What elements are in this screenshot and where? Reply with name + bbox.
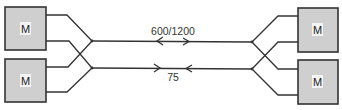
modem-left-1: M — [5, 7, 46, 50]
channel-line — [92, 41, 252, 42]
channel-high-speed: 600/1200 — [92, 25, 252, 45]
modem-left-2: M — [5, 59, 46, 102]
modem-label: M — [21, 75, 30, 87]
right-wiring — [251, 16, 298, 95]
wire — [46, 68, 92, 92]
modem-diagram: M M M M 600/1200 — [0, 0, 342, 110]
channel-low-speed: 75 — [92, 64, 252, 83]
wire — [46, 41, 92, 67]
modem-right-2: M — [298, 60, 338, 104]
channel-label: 600/1200 — [151, 25, 195, 37]
modem-right-1: M — [298, 8, 338, 52]
modem-label: M — [21, 23, 30, 35]
wire — [46, 41, 92, 68]
left-wiring — [46, 15, 93, 92]
channel-label: 75 — [167, 71, 179, 83]
wire — [252, 16, 298, 42]
wire — [252, 69, 298, 95]
channel-line — [92, 68, 252, 69]
wire — [46, 15, 92, 41]
modem-label: M — [313, 24, 322, 36]
modem-label: M — [313, 76, 322, 88]
